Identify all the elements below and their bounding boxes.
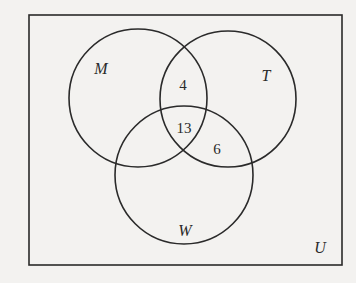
venn-diagram: M T W U 4 13 6 <box>0 0 356 283</box>
set-m-label: M <box>93 60 109 77</box>
region-m-t-w-count: 13 <box>177 120 192 136</box>
region-m-t-count: 4 <box>179 77 187 93</box>
set-w-label: W <box>178 222 193 239</box>
set-t-circle <box>160 31 296 167</box>
set-t-label: T <box>262 67 272 84</box>
set-m-circle <box>69 29 207 167</box>
universe-label: U <box>314 239 327 256</box>
region-t-w-count: 6 <box>213 141 221 157</box>
